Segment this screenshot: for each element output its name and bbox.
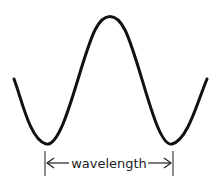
right-arrow xyxy=(148,158,171,168)
left-arrow xyxy=(47,158,69,168)
wave-curve xyxy=(14,17,207,145)
wavelength-label: wavelength xyxy=(71,156,147,171)
wave-diagram: wavelength xyxy=(0,0,219,187)
